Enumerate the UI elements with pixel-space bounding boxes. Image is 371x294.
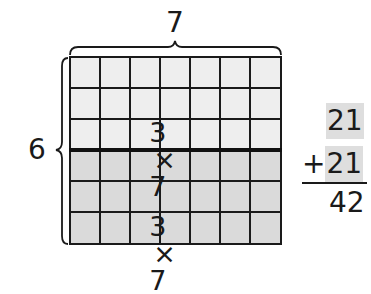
bottom-product: 3 × 7 xyxy=(132,186,178,294)
sum-result: 42 xyxy=(329,189,365,217)
width-label: 7 xyxy=(166,9,184,37)
top-brace-icon xyxy=(70,41,281,55)
addend-2-row: +21 xyxy=(302,150,363,178)
bottom-product-right: 7 xyxy=(149,265,166,294)
left-brace-icon xyxy=(56,58,68,244)
addend-1-value: 21 xyxy=(326,103,364,139)
addend-2-value: 21 xyxy=(325,146,363,182)
plus-sign: + xyxy=(302,147,325,180)
height-label: 6 xyxy=(28,136,46,164)
addend-1: 21 xyxy=(326,107,364,135)
top-product: 3 × 7 xyxy=(132,92,178,200)
